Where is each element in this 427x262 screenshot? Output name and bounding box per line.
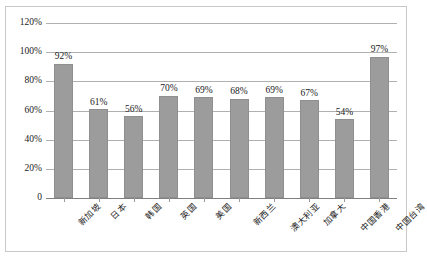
y-axis-tick-label: 40% bbox=[0, 135, 42, 145]
bar bbox=[124, 116, 143, 198]
bar-value-label: 69% bbox=[265, 86, 282, 96]
bar bbox=[370, 57, 389, 198]
bar-group: 92% bbox=[54, 23, 73, 198]
y-axis-tick-label: 20% bbox=[0, 164, 42, 174]
bar bbox=[230, 99, 249, 198]
bar-group: 68% bbox=[230, 23, 249, 198]
bars-group: 92%61%56%70%69%68%69%67%54%97% bbox=[46, 23, 397, 198]
bar-group: 61% bbox=[89, 23, 108, 198]
bar-group: 69% bbox=[265, 23, 284, 198]
bar-value-label: 69% bbox=[195, 86, 212, 96]
x-axis-category-label: 日本 bbox=[109, 202, 128, 221]
bar-value-label: 92% bbox=[55, 52, 72, 62]
bar-group: 56% bbox=[124, 23, 143, 198]
x-axis-category-label: 英国 bbox=[179, 202, 198, 221]
y-axis-tick-label: 80% bbox=[0, 76, 42, 86]
x-axis-category-label: 中国香港 bbox=[360, 202, 392, 234]
x-axis-category-label: 澳大利亚 bbox=[290, 202, 322, 234]
x-axis-labels-group: 新加坡日本韩国英国美国新西兰澳大利亚加拿大中国香港中国台湾 bbox=[46, 202, 397, 260]
bar-value-label: 56% bbox=[125, 105, 142, 115]
bar bbox=[159, 96, 178, 198]
bar bbox=[194, 97, 213, 198]
bar-value-label: 97% bbox=[371, 45, 388, 55]
bar-value-label: 67% bbox=[301, 89, 318, 99]
bar-group: 54% bbox=[335, 23, 354, 198]
x-axis-category-label: 加拿大 bbox=[322, 202, 348, 228]
y-axis-tick-label: 60% bbox=[0, 106, 42, 116]
y-axis-tick-label: 100% bbox=[0, 47, 42, 57]
x-axis-category-label: 美国 bbox=[214, 202, 233, 221]
bar-value-label: 68% bbox=[230, 87, 247, 97]
bar bbox=[89, 109, 108, 198]
bar bbox=[335, 119, 354, 198]
bar-value-label: 70% bbox=[160, 84, 177, 94]
y-axis-tick-label: 0 bbox=[0, 193, 42, 203]
bar bbox=[265, 97, 284, 198]
x-axis-category-label: 新加坡 bbox=[76, 202, 102, 228]
bar-group: 67% bbox=[300, 23, 319, 198]
bar bbox=[54, 64, 73, 198]
x-axis-category-label: 新西兰 bbox=[252, 202, 278, 228]
x-axis-category-label: 韩国 bbox=[144, 202, 163, 221]
bar-value-label: 54% bbox=[336, 108, 353, 118]
bar bbox=[300, 100, 319, 198]
bar-group: 69% bbox=[194, 23, 213, 198]
y-axis-tick-label: 120% bbox=[0, 18, 42, 28]
plot-area: 92%61%56%70%69%68%69%67%54%97% bbox=[46, 23, 397, 198]
bar-group: 97% bbox=[370, 23, 389, 198]
bar-value-label: 61% bbox=[90, 98, 107, 108]
bar-group: 70% bbox=[159, 23, 178, 198]
